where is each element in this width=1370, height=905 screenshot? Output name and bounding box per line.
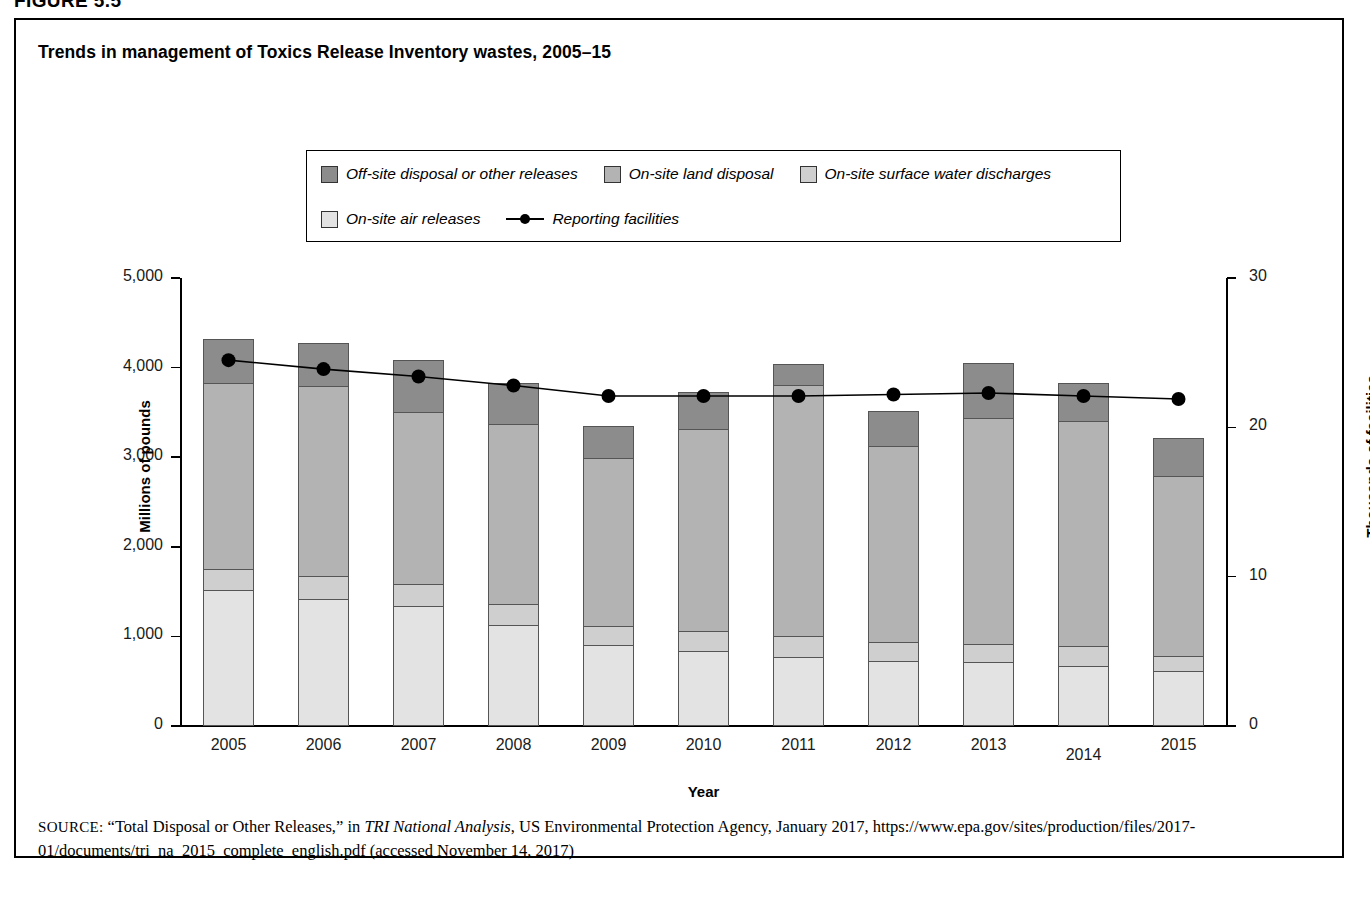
legend-swatch-icon	[321, 211, 338, 228]
x-axis-tick-label: 2006	[284, 736, 364, 754]
legend-line-marker-icon	[506, 212, 544, 226]
legend-item-offsite-disposal: Off-site disposal or other releases	[321, 165, 578, 183]
legend-item-onsite-land-disposal: On-site land disposal	[604, 165, 774, 183]
plot-inner: 01,0002,0003,0004,0005,000 0102030 20052…	[181, 278, 1226, 726]
line-data-point[interactable]	[792, 389, 806, 403]
x-axis-tick-label: 2014	[1044, 746, 1124, 764]
source-text-1: “Total Disposal or Other Releases,” in	[103, 817, 364, 836]
legend-item-onsite-air-releases: On-site air releases	[321, 210, 480, 228]
legend-label: Off-site disposal or other releases	[346, 165, 578, 183]
y-axis-left-tick-label: 1,000	[123, 625, 163, 643]
figure-number: FIGURE 5.5	[14, 0, 121, 12]
line-data-point[interactable]	[507, 379, 521, 393]
legend-swatch-icon	[800, 166, 817, 183]
source-note: SOURCE: “Total Disposal or Other Release…	[38, 815, 1328, 863]
x-axis-tick-label: 2009	[569, 736, 649, 754]
legend-label: Reporting facilities	[552, 210, 679, 228]
line-data-point[interactable]	[412, 370, 426, 384]
line-data-point[interactable]	[1077, 389, 1091, 403]
legend-item-onsite-surface-water: On-site surface water discharges	[800, 165, 1052, 183]
y-axis-left-tick	[171, 546, 180, 548]
y-axis-right-tick	[1227, 725, 1236, 727]
y-axis-left-tick-label: 5,000	[123, 267, 163, 285]
legend-swatch-icon	[604, 166, 621, 183]
line-data-point[interactable]	[982, 386, 996, 400]
line-data-point[interactable]	[1172, 392, 1186, 406]
source-prefix: SOURCE:	[38, 819, 103, 835]
y-axis-right-tick-label: 20	[1249, 416, 1267, 434]
plot-area: 01,0002,0003,0004,0005,000 0102030 20052…	[181, 278, 1226, 726]
x-axis-tick-label: 2015	[1139, 736, 1219, 754]
y-axis-right-tick-label: 30	[1249, 267, 1267, 285]
x-axis-tick-label: 2010	[664, 736, 744, 754]
legend-label: On-site air releases	[346, 210, 480, 228]
y-axis-left-title: Millions of pounds	[136, 372, 153, 562]
line-data-point[interactable]	[317, 362, 331, 376]
x-axis-title: Year	[181, 783, 1226, 800]
legend-item-reporting-facilities: Reporting facilities	[506, 210, 679, 228]
x-axis-tick-label: 2005	[189, 736, 269, 754]
x-axis-tick-label: 2008	[474, 736, 554, 754]
y-axis-left-tick	[171, 456, 180, 458]
y-axis-left-tick	[171, 636, 180, 638]
y-axis-right-tick-label: 0	[1249, 715, 1258, 733]
source-italic-title: TRI National Analysis	[364, 817, 510, 836]
y-axis-left-tick	[171, 367, 180, 369]
x-axis-tick-label: 2012	[854, 736, 934, 754]
chart-title: Trends in management of Toxics Release I…	[38, 42, 611, 63]
line-data-point[interactable]	[887, 387, 901, 401]
x-axis-tick-label: 2007	[379, 736, 459, 754]
legend-label: On-site surface water discharges	[825, 165, 1052, 183]
line-data-point[interactable]	[602, 389, 616, 403]
x-axis-tick-label: 2013	[949, 736, 1029, 754]
y-axis-right-tick	[1227, 277, 1236, 279]
line-data-point[interactable]	[222, 353, 236, 367]
y-axis-right-title: Thousands of facilities	[1363, 357, 1370, 557]
legend-label: On-site land disposal	[629, 165, 774, 183]
legend-row-1: Off-site disposal or other releases On-s…	[307, 151, 1120, 197]
x-axis-tick-label: 2011	[759, 736, 839, 754]
y-axis-right-tick	[1227, 427, 1236, 429]
y-axis-right-tick	[1227, 576, 1236, 578]
y-axis-right	[1226, 278, 1228, 726]
chart-legend: Off-site disposal or other releases On-s…	[306, 150, 1121, 242]
legend-swatch-icon	[321, 166, 338, 183]
figure-box: Trends in management of Toxics Release I…	[14, 18, 1344, 858]
y-axis-left-tick-label: 0	[154, 715, 163, 733]
reporting-facilities-line	[181, 278, 1226, 726]
legend-row-2: On-site air releases Reporting facilitie…	[307, 197, 1120, 241]
line-data-point[interactable]	[697, 389, 711, 403]
y-axis-left-tick	[171, 725, 180, 727]
y-axis-right-tick-label: 10	[1249, 566, 1267, 584]
y-axis-left-tick	[171, 277, 180, 279]
